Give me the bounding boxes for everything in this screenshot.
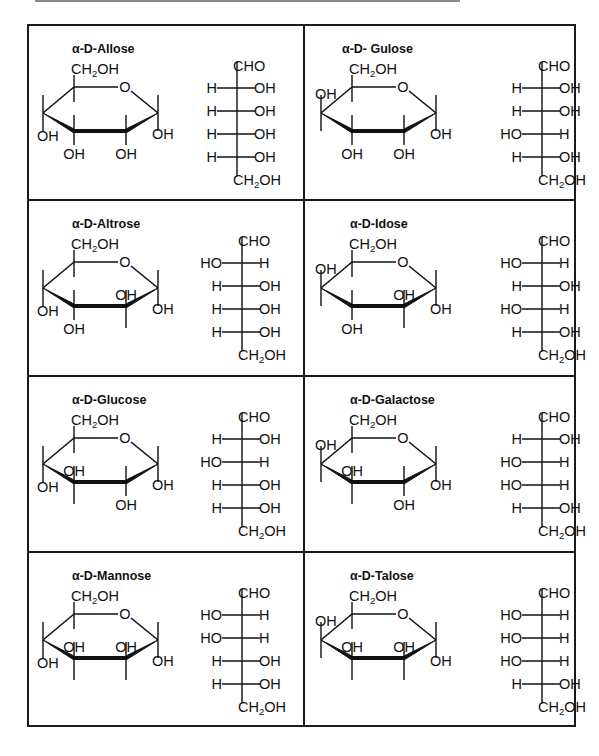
ring-oxygen-label: O bbox=[397, 254, 408, 270]
fischer-left-group: H bbox=[512, 103, 522, 119]
fischer-projection: CHOHOHHOHHOHHOHCH2OH bbox=[200, 585, 286, 717]
fischer-left-group: HO bbox=[500, 477, 522, 493]
fischer-left-group: H bbox=[212, 477, 222, 493]
fischer-right-group: OH bbox=[559, 500, 581, 516]
c2-hydroxyl-down: OH bbox=[393, 146, 415, 162]
fischer-right-group: H bbox=[259, 607, 269, 623]
c2-hydroxyl-down: OH bbox=[115, 497, 137, 513]
fischer-ch2oh-label: CH2OH bbox=[538, 523, 586, 541]
fischer-right-group: H bbox=[559, 126, 569, 142]
fischer-right-group: OH bbox=[559, 80, 581, 96]
fischer-right-group: OH bbox=[559, 278, 581, 294]
cell-idose: α-D-IdoseCH2OHOOHOHOHOHCHOHOHHOHHOHHOHCH… bbox=[305, 201, 576, 376]
ch2oh-label: CH2OH bbox=[71, 61, 119, 79]
fischer-right-group: OH bbox=[259, 278, 281, 294]
ring-oxygen-label: O bbox=[119, 79, 130, 95]
sugar-name: α-D-Allose bbox=[72, 42, 135, 56]
c1-hydroxyl: OH bbox=[430, 653, 452, 669]
haworth-projection bbox=[321, 75, 436, 145]
fischer-left-group: H bbox=[512, 676, 522, 692]
fischer-right-group: H bbox=[559, 477, 569, 493]
fischer-left-group: H bbox=[512, 324, 522, 340]
fischer-left-group: H bbox=[212, 676, 222, 692]
sugar-name: α-D-Mannose bbox=[72, 569, 151, 583]
fischer-right-group: H bbox=[559, 653, 569, 669]
fischer-right-group: OH bbox=[259, 653, 281, 669]
c2-hydroxyl-up: OH bbox=[115, 639, 137, 655]
c3-hydroxyl-up: OH bbox=[63, 639, 85, 655]
aldehyde-label: CHO bbox=[238, 233, 270, 249]
top-rule bbox=[35, 0, 460, 2]
sugar-name: α-D-Idose bbox=[350, 217, 408, 231]
fischer-right-group: OH bbox=[559, 431, 581, 447]
aldehyde-label: CHO bbox=[538, 58, 570, 74]
fischer-right-group: OH bbox=[254, 126, 276, 142]
c1-hydroxyl: OH bbox=[430, 126, 452, 142]
fischer-right-group: H bbox=[559, 454, 569, 470]
fischer-right-group: H bbox=[559, 630, 569, 646]
fischer-right-group: H bbox=[259, 630, 269, 646]
cell-gulose: α-D- GuloseCH2OHOOHOHOHOHCHOHOHHOHHOHHOH… bbox=[305, 26, 576, 201]
c4-hydroxyl-down: OH bbox=[37, 128, 59, 144]
c4-hydroxyl-up: OH bbox=[315, 86, 337, 102]
c4-hydroxyl-up: OH bbox=[315, 261, 337, 277]
fischer-right-group: H bbox=[559, 301, 569, 317]
cell-mannose: α-D-MannoseCH2OHOOHOHOHOHCHOHOHHOHHOHHOH… bbox=[29, 553, 303, 728]
fischer-left-group: H bbox=[207, 149, 217, 165]
fischer-right-group: H bbox=[259, 454, 269, 470]
fischer-right-group: H bbox=[559, 607, 569, 623]
c1-hydroxyl: OH bbox=[152, 301, 174, 317]
haworth-projection bbox=[321, 426, 436, 504]
ring-oxygen-label: O bbox=[119, 254, 130, 270]
ch2oh-label: CH2OH bbox=[71, 588, 119, 606]
c3-hydroxyl-down: OH bbox=[341, 146, 363, 162]
fischer-left-group: H bbox=[512, 500, 522, 516]
fischer-ch2oh-label: CH2OH bbox=[233, 172, 281, 190]
aldehyde-label: CHO bbox=[238, 585, 270, 601]
fischer-left-group: HO bbox=[500, 630, 522, 646]
fischer-right-group: OH bbox=[259, 324, 281, 340]
fischer-left-group: H bbox=[212, 431, 222, 447]
fischer-ch2oh-label: CH2OH bbox=[238, 699, 286, 717]
c2-hydroxyl-up: OH bbox=[115, 287, 137, 303]
c3-hydroxyl-up: OH bbox=[341, 463, 363, 479]
fischer-right-group: OH bbox=[259, 431, 281, 447]
fischer-projection: CHOHOHHOHHOHHOHCH2OH bbox=[200, 233, 286, 365]
fischer-right-group: H bbox=[559, 255, 569, 271]
ring-oxygen-label: O bbox=[397, 430, 408, 446]
fischer-projection: CHOHOHHOHHOHHOHCH2OH bbox=[200, 409, 286, 541]
c1-hydroxyl: OH bbox=[430, 477, 452, 493]
fischer-right-group: H bbox=[259, 255, 269, 271]
c3-hydroxyl-up: OH bbox=[341, 639, 363, 655]
ring-oxygen-label: O bbox=[397, 606, 408, 622]
haworth-projection bbox=[43, 250, 158, 328]
fischer-left-group: H bbox=[207, 103, 217, 119]
fischer-left-group: H bbox=[512, 431, 522, 447]
c4-hydroxyl-up: OH bbox=[315, 613, 337, 629]
haworth-projection bbox=[321, 602, 436, 680]
fischer-projection: CHOHOHHOHHOHHOHCH2OH bbox=[500, 409, 586, 541]
fischer-projection: CHOHOHHOHHOHHOHCH2OH bbox=[500, 58, 586, 190]
sugar-structures: α-D-GlucoseCH2OHOOHOHOHOHCHOHOHHOHHOHHOH… bbox=[29, 377, 303, 552]
haworth-projection bbox=[43, 426, 158, 504]
c1-hydroxyl: OH bbox=[430, 301, 452, 317]
cell-glucose: α-D-GlucoseCH2OHOOHOHOHOHCHOHOHHOHHOHHOH… bbox=[29, 377, 303, 552]
cell-talose: α-D-TaloseCH2OHOOHOHOHOHCHOHOHHOHHOHHOHC… bbox=[305, 553, 576, 728]
sugar-name: α-D- Gulose bbox=[342, 42, 413, 56]
cell-altrose: α-D-AltroseCH2OHOOHOHOHOHCHOHOHHOHHOHHOH… bbox=[29, 201, 303, 376]
ring-oxygen-label: O bbox=[119, 430, 130, 446]
fischer-left-group: H bbox=[512, 80, 522, 96]
ch2oh-label: CH2OH bbox=[71, 412, 119, 430]
fischer-ch2oh-label: CH2OH bbox=[538, 172, 586, 190]
fischer-left-group: HO bbox=[200, 255, 222, 271]
fischer-right-group: OH bbox=[254, 103, 276, 119]
fischer-left-group: H bbox=[212, 500, 222, 516]
fischer-left-group: HO bbox=[500, 126, 522, 142]
fischer-right-group: OH bbox=[559, 324, 581, 340]
c1-hydroxyl: OH bbox=[152, 477, 174, 493]
sugar-structures: α-D-GalactoseCH2OHOOHOHOHOHCHOHOHHOHHOHH… bbox=[305, 377, 576, 552]
sugar-name: α-D-Glucose bbox=[72, 393, 146, 407]
aldehyde-label: CHO bbox=[238, 409, 270, 425]
sugar-structures: α-D-IdoseCH2OHOOHOHOHOHCHOHOHHOHHOHHOHCH… bbox=[305, 201, 576, 376]
fischer-ch2oh-label: CH2OH bbox=[538, 699, 586, 717]
